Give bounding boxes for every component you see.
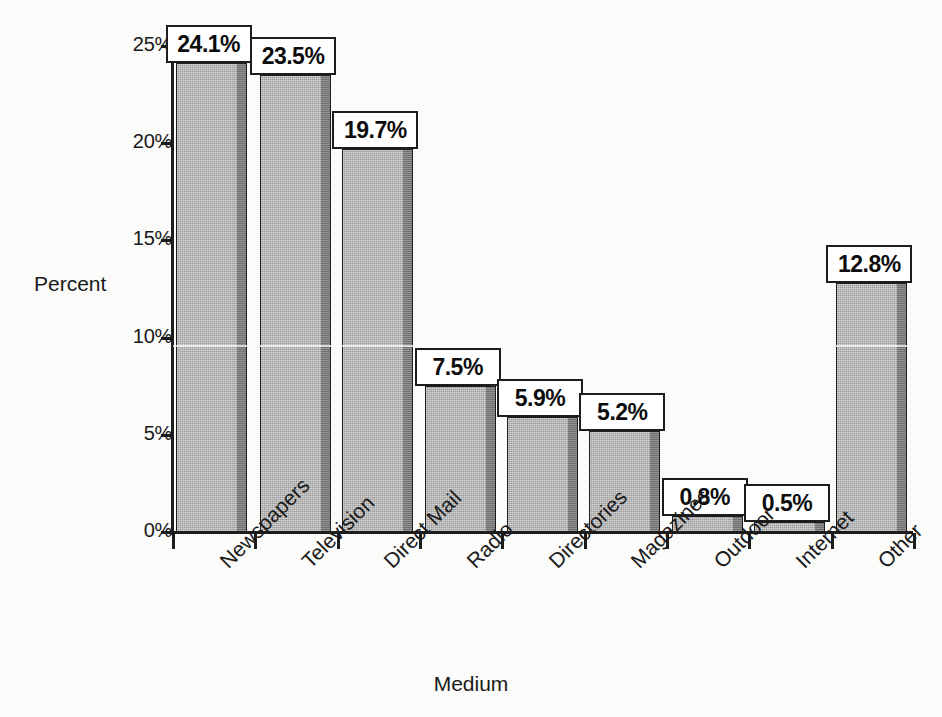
bar bbox=[836, 283, 907, 532]
x-axis-title: Medium bbox=[0, 672, 942, 696]
y-axis-title: Percent bbox=[34, 272, 106, 296]
bar-value-label: 23.5% bbox=[250, 37, 336, 75]
bar-shade bbox=[897, 284, 906, 531]
bar-chart: 0%5%10%15%20%25% 24.1%23.5%19.7%7.5%5.9%… bbox=[0, 0, 942, 717]
bar-shade bbox=[237, 64, 246, 531]
bar-value-label: 7.5% bbox=[415, 348, 501, 386]
x-axis-tick bbox=[172, 533, 175, 549]
bar bbox=[342, 149, 413, 532]
bar bbox=[507, 417, 578, 532]
bar bbox=[260, 75, 331, 532]
bar-shade bbox=[486, 387, 495, 531]
bar-shade bbox=[568, 418, 577, 531]
bar-shade bbox=[650, 432, 659, 531]
bar-value-label: 5.9% bbox=[497, 379, 583, 417]
bar-value-label: 24.1% bbox=[166, 25, 252, 63]
bar-value-label: 12.8% bbox=[826, 245, 912, 283]
bar-shade bbox=[321, 76, 330, 531]
bar-value-label: 19.7% bbox=[332, 111, 418, 149]
bar bbox=[176, 63, 247, 532]
bar-value-label: 5.2% bbox=[579, 393, 665, 431]
bar-shade bbox=[403, 150, 412, 531]
